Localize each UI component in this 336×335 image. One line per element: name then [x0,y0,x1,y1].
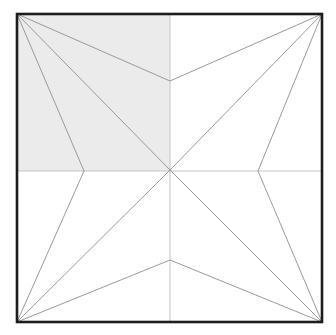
figure-stage [0,0,336,335]
geometry-figure [0,0,336,335]
